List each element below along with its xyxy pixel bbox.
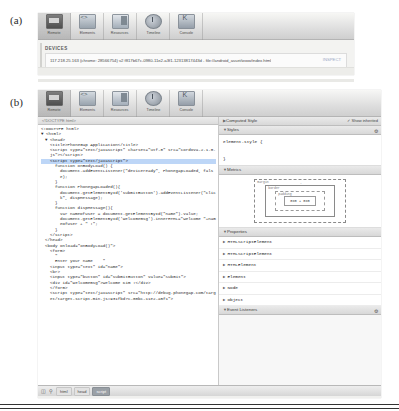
- property-row[interactable]: ▶Node: [219, 283, 381, 295]
- property-row[interactable]: ▶HTMLElement: [219, 260, 381, 272]
- tab-label-resources: Resources: [111, 30, 129, 35]
- breadcrumb-item[interactable]: head: [74, 387, 91, 396]
- elements-icon: [79, 91, 96, 106]
- box-model-padding[interactable]: padding 0x0 + 0x0: [275, 191, 324, 211]
- code-line[interactable]: <script type="text/javascript" charset="…: [41, 148, 216, 159]
- tab-resources-b[interactable]: Resources: [104, 90, 137, 117]
- property-row[interactable]: ▶Element: [219, 272, 381, 284]
- disclosure-triangle-icon[interactable]: ▶: [223, 275, 225, 279]
- box-model-content[interactable]: 0x0 + 0x0: [284, 196, 315, 206]
- properties-header[interactable]: ▼ Properties: [219, 228, 381, 237]
- property-name: HTMLScriptElement: [227, 251, 272, 256]
- gear-icon[interactable]: ⚙: [374, 127, 378, 135]
- tab-label-console: Console: [179, 30, 193, 35]
- tab-remote[interactable]: Remote: [38, 13, 71, 40]
- property-name: HTMLScriptElement: [227, 239, 272, 244]
- event-listeners-title: Event Listeners: [227, 306, 257, 314]
- device-entry-text: 117.218.25.163 (chrome: 28566754) v2 f81…: [50, 58, 271, 63]
- property-row[interactable]: ▶Object: [219, 295, 381, 307]
- code-line[interactable]: document.getElementById('submitButton').…: [41, 191, 216, 202]
- box-model-diagram[interactable]: margin - border padding 0x0 + 0x0: [219, 175, 381, 228]
- styles-header[interactable]: ▼ Styles ⚙: [219, 126, 381, 135]
- tab-elements-b[interactable]: Elements: [71, 90, 104, 117]
- properties-list[interactable]: ▶HTMLScriptElement▶HTMLScriptElement▶HTM…: [219, 237, 381, 306]
- tab-label-remote-b: Remote: [48, 107, 61, 112]
- panel-a-devices-window: Remote Elements Resources Timeline Conso…: [38, 13, 354, 75]
- figure-rule-top: [0, 404, 399, 405]
- timeline-icon: [145, 91, 162, 106]
- code-line[interactable]: document.addEventListener("deviceready",…: [41, 169, 216, 180]
- code-line[interactable]: <script type="text/javascript" src="http…: [41, 291, 216, 302]
- property-row[interactable]: ▶HTMLScriptElement: [219, 237, 381, 249]
- resources-icon: [112, 14, 129, 29]
- console-icon: [178, 14, 195, 29]
- breadcrumb-item[interactable]: html: [56, 387, 72, 396]
- tab-timeline[interactable]: Timeline: [137, 13, 170, 40]
- metrics-header[interactable]: ▼ Metrics: [219, 166, 381, 175]
- search-icon[interactable]: ⚲: [49, 388, 53, 394]
- element-style-body[interactable]: [223, 145, 377, 155]
- panel-a-separator: [38, 79, 354, 82]
- code-line[interactable]: document.getElementById('welcomemsg').in…: [41, 217, 216, 228]
- inspect-link[interactable]: INSPECT: [323, 57, 341, 62]
- dock-icon[interactable]: ◫: [41, 388, 46, 394]
- box-model-border-label: border: [268, 186, 279, 190]
- property-name: Element: [227, 274, 245, 279]
- tab-timeline-b[interactable]: Timeline: [137, 90, 170, 117]
- tab-resources[interactable]: Resources: [104, 13, 137, 40]
- panel-b-inspector-window: Remote Elements Resources Timeline Conso…: [38, 90, 381, 398]
- element-style-close-brace: }: [223, 155, 377, 162]
- timeline-icon: [145, 14, 162, 29]
- breadcrumb-item[interactable]: script: [92, 387, 110, 396]
- tab-console-b[interactable]: Console: [170, 90, 203, 117]
- property-row[interactable]: ▶HTMLScriptElement: [219, 249, 381, 261]
- tab-label-elements-b: Elements: [79, 107, 94, 112]
- show-inherited-checkbox[interactable]: ✓ Show inherited: [347, 117, 378, 125]
- tab-label-elements: Elements: [79, 30, 94, 35]
- tab-elements[interactable]: Elements: [71, 13, 104, 40]
- remote-icon: [46, 91, 63, 106]
- properties-title: Properties: [227, 228, 247, 236]
- tab-label-timeline-b: Timeline: [146, 107, 160, 112]
- element-style-rule-block[interactable]: element.style { }: [219, 135, 381, 166]
- gear-icon[interactable]: ⚙: [374, 307, 378, 315]
- console-icon: [178, 91, 195, 106]
- styles-title: Styles: [227, 126, 239, 134]
- box-model-margin[interactable]: margin - border padding 0x0 + 0x0: [254, 179, 345, 223]
- box-model-padding-label: padding: [278, 192, 291, 196]
- tab-label-remote: Remote: [48, 30, 61, 35]
- elements-icon: [79, 14, 96, 29]
- devices-section-title: DEVICES: [38, 40, 354, 53]
- panel-a-side-marker: [40, 43, 42, 69]
- box-model-border[interactable]: border padding 0x0 + 0x0: [265, 185, 334, 217]
- figure-label-b: (b): [10, 96, 23, 108]
- tab-remote-b[interactable]: Remote: [38, 90, 71, 117]
- computed-style-header[interactable]: ▶ Computed Style ✓ Show inherited: [219, 117, 381, 126]
- inspector-body: <!DOCTYPE html> <!DOCTYPE html>▼ <html>▼…: [38, 117, 381, 385]
- resources-icon: [112, 91, 129, 106]
- figure-rule-bottom: [0, 408, 399, 409]
- tab-label-console-b: Console: [179, 107, 193, 112]
- metrics-title: Metrics: [227, 166, 241, 174]
- device-list-item[interactable]: 117.218.25.163 (chrome: 28566754) v2 f81…: [45, 53, 347, 68]
- property-name: HTMLElement: [227, 262, 256, 267]
- event-listeners-header[interactable]: ▼ Event Listeners ⚙: [219, 306, 381, 315]
- disclosure-triangle-icon[interactable]: ▶: [223, 286, 225, 290]
- devtools-toolbar-b: Remote Elements Resources Timeline Conso…: [38, 90, 381, 117]
- tab-label-timeline: Timeline: [146, 30, 160, 35]
- show-inherited-label: Show inherited: [352, 118, 378, 123]
- tab-console[interactable]: Console: [170, 13, 203, 40]
- disclosure-triangle-icon[interactable]: ▶: [223, 263, 225, 267]
- breadcrumb[interactable]: htmlheadscript: [56, 387, 110, 396]
- element-style-selector: element.style {: [223, 138, 377, 145]
- box-model-margin-label: margin: [257, 180, 268, 184]
- figure-label-a: (a): [10, 14, 22, 26]
- dom-subbar: <!DOCTYPE html>: [38, 117, 218, 125]
- styles-sidebar[interactable]: ▶ Computed Style ✓ Show inherited ▼ Styl…: [219, 117, 381, 385]
- dom-tree-pane[interactable]: <!DOCTYPE html> <!DOCTYPE html>▼ <html>▼…: [38, 117, 219, 385]
- remote-icon: [46, 14, 63, 29]
- disclosure-triangle-icon[interactable]: ▶: [223, 240, 225, 244]
- html-source-code[interactable]: <!DOCTYPE html>▼ <html>▼ <head><title>Ph…: [38, 125, 218, 304]
- disclosure-triangle-icon[interactable]: ▶: [223, 252, 225, 256]
- disclosure-triangle-icon[interactable]: ▶: [223, 298, 225, 302]
